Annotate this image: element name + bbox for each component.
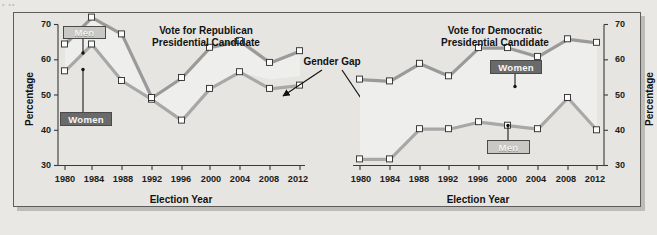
gender-gap-band-right xyxy=(360,39,597,159)
chart-democratic: 70 60 50 40 30 1980 1984 1988 1992 1996 … xyxy=(351,19,625,205)
x-tick-label-left-2004: 2004 xyxy=(230,174,251,184)
y-ticks-right xyxy=(604,25,608,166)
series-tag-right-men[interactable]: Men xyxy=(487,140,530,154)
x-tick-label-left-2012: 2012 xyxy=(288,174,308,184)
y-tick-label-right-60: 60 xyxy=(615,54,625,64)
callout-leader-right-men xyxy=(506,124,509,141)
x-tick-label-left-1996: 1996 xyxy=(171,174,191,184)
y-tick-label-left-50: 50 xyxy=(41,90,51,100)
callout-leader-left-women xyxy=(81,68,84,113)
y-tick-label-right-40: 40 xyxy=(615,125,625,135)
gender-gap-label: Gender Gap xyxy=(303,56,360,67)
x-tick-label-left-1980: 1980 xyxy=(55,174,75,184)
x-tick-label-left-1988: 1988 xyxy=(113,174,133,184)
x-axis-title-right: Election Year xyxy=(447,194,510,205)
x-tick-label-left-2008: 2008 xyxy=(259,174,279,184)
x-axis-title-left: Election Year xyxy=(150,194,213,205)
x-tick-label-left-1992: 1992 xyxy=(142,174,162,184)
x-ticks-right xyxy=(360,166,597,171)
x-tick-label-right-2012: 2012 xyxy=(585,174,605,184)
x-tick-label-right-2008: 2008 xyxy=(556,174,576,184)
chart-title-right-line1: Vote for Democratic xyxy=(448,25,543,36)
x-tick-label-right-1980: 1980 xyxy=(351,174,371,184)
series-tag-right-women[interactable]: Women xyxy=(490,60,542,74)
series-tag-left-men[interactable]: Men xyxy=(63,26,106,39)
y-axis-title-right: Percentage xyxy=(644,72,655,126)
y-axis-title-left: Percentage xyxy=(24,72,35,126)
y-tick-label-left-30: 30 xyxy=(41,160,51,170)
y-tick-label-left-40: 40 xyxy=(41,125,51,135)
x-tick-label-right-1988: 1988 xyxy=(409,174,429,184)
y-tick-label-right-50: 50 xyxy=(615,90,625,100)
x-tick-label-left-1984: 1984 xyxy=(84,174,105,184)
y-tick-label-right-70: 70 xyxy=(615,19,625,29)
x-tick-label-right-1996: 1996 xyxy=(468,174,488,184)
x-tick-label-right-1992: 1992 xyxy=(438,174,458,184)
x-tick-label-right-1984: 1984 xyxy=(380,174,401,184)
y-tick-label-left-60: 60 xyxy=(41,54,51,64)
chart-title-left-line1: Vote for Republican xyxy=(159,25,253,36)
x-tick-label-left-2000: 2000 xyxy=(201,174,221,184)
y-tick-label-left-70: 70 xyxy=(41,19,51,29)
chart-republican: 70 60 50 40 30 1980 1984 1988 1992 1996 … xyxy=(41,14,308,205)
y-tick-label-right-30: 30 xyxy=(615,160,625,170)
x-tick-label-right-2000: 2000 xyxy=(497,174,517,184)
y-ticks-left xyxy=(54,25,58,166)
chart-title-left-line2: Presidential Candidate xyxy=(152,37,260,48)
x-ticks-left xyxy=(65,166,300,171)
series-tag-left-women[interactable]: Women xyxy=(60,112,112,126)
figure-root: ▫ ▫▫ xyxy=(0,0,657,235)
chart-title-right-line2: Presidential Candidate xyxy=(441,37,549,48)
x-tick-label-right-2004: 2004 xyxy=(526,174,547,184)
